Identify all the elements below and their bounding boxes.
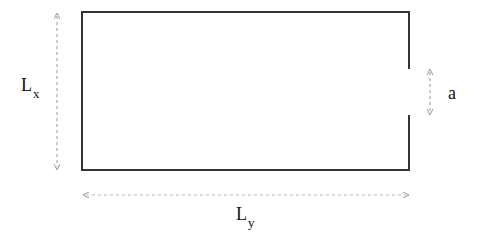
ly-label: Ly <box>236 205 255 223</box>
lx-label: Lx <box>21 76 40 94</box>
a-label: a <box>448 84 456 102</box>
domain-boundary <box>82 12 409 170</box>
